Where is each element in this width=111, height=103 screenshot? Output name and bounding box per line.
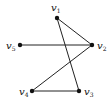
node-label-v1: v1: [51, 2, 60, 14]
node-label-v4: v4: [19, 86, 29, 98]
node-v1: [55, 16, 59, 20]
edge-v1-v3: [57, 18, 79, 91]
node-label-v3: v3: [84, 86, 94, 98]
edge-v1-v2: [57, 18, 92, 45]
node-label-v5: v5: [6, 40, 16, 52]
graph-diagram: v1v2v3v4v5: [0, 0, 111, 103]
nodes: [18, 16, 94, 93]
node-v2: [90, 43, 94, 47]
edge-v2-v4: [32, 45, 92, 91]
node-label-v2: v2: [97, 40, 107, 52]
edges: [20, 18, 92, 91]
node-v5: [18, 43, 22, 47]
node-v4: [30, 89, 34, 93]
node-v3: [77, 89, 81, 93]
